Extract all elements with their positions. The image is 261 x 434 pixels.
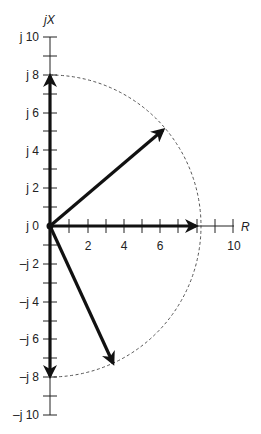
phasor-diagram: jX R j 10 j 8 j 6 j 4 j 2 j 0 –j 2 –j 4 … xyxy=(0,0,261,434)
x-tick-label: 2 xyxy=(85,239,92,253)
origin-dot xyxy=(47,223,54,230)
y-tick-label: j 8 xyxy=(25,68,39,82)
y-tick-label: –j 6 xyxy=(20,332,40,346)
y-axis-label: jX xyxy=(42,13,56,27)
y-tick-label: –j 8 xyxy=(20,370,40,384)
y-tick-label: j 0 xyxy=(25,219,39,233)
x-tick-label: 10 xyxy=(227,239,241,253)
y-tick-label: –j 2 xyxy=(20,257,40,271)
phasor-diagonal-down xyxy=(50,226,113,363)
x-tick-label: 4 xyxy=(121,239,128,253)
y-tick-label: –j 4 xyxy=(20,295,40,309)
y-tick-label: –j 10 xyxy=(13,408,39,422)
y-tick-label: j 4 xyxy=(25,144,39,158)
y-tick-label: j 10 xyxy=(19,30,40,44)
phasor-diagonal-up xyxy=(50,130,163,226)
y-tick-label: j 2 xyxy=(25,181,39,195)
x-axis-label: R xyxy=(241,220,250,234)
y-tick-label: j 6 xyxy=(25,106,39,120)
x-tick-label: 6 xyxy=(157,239,164,253)
